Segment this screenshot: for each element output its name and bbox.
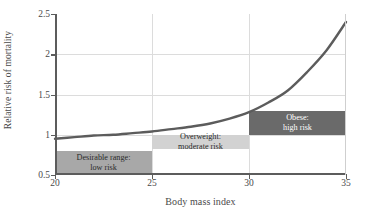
y-tick-mark (51, 54, 56, 55)
chart-figure: Relative risk of mortality Body mass ind… (0, 0, 366, 216)
plot-right-border (345, 14, 346, 175)
y-tick-label: 1.5 (38, 90, 50, 100)
risk-curve (55, 14, 346, 175)
y-tick-label: 1 (45, 130, 50, 140)
y-axis-title: Relative risk of mortality (3, 0, 19, 188)
x-axis-title: Body mass index (55, 196, 346, 207)
y-tick-label: 0.5 (38, 170, 50, 180)
y-tick-label: 2 (45, 49, 50, 59)
x-tick-label: 25 (147, 178, 157, 188)
x-tick-label: 30 (244, 178, 254, 188)
y-tick-mark (51, 95, 56, 96)
x-axis-line (55, 173, 346, 175)
y-tick-mark (51, 14, 56, 15)
y-tick-label: 2.5 (38, 9, 50, 19)
y-tick-mark (51, 135, 56, 136)
plot-area: Desirable range:low riskOverweight:moder… (55, 14, 346, 175)
x-tick-label: 20 (50, 178, 60, 188)
x-tick-label: 35 (341, 178, 351, 188)
